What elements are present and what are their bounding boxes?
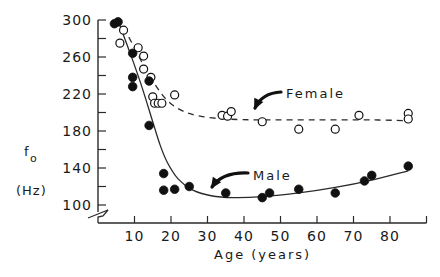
x-tick-label: 40 xyxy=(234,228,254,244)
x-tick-label: 60 xyxy=(307,228,327,244)
x-axis-title: Age (years) xyxy=(214,247,311,262)
female-data-point xyxy=(258,118,266,126)
y-tick-label: 260 xyxy=(62,49,92,65)
female-data-point xyxy=(158,99,166,107)
male-data-point xyxy=(221,189,230,198)
x-tick-label: 30 xyxy=(198,228,218,244)
male-data-point xyxy=(159,169,168,178)
axes: 1020304050607080100140180220260300 xyxy=(62,12,426,244)
x-tick-label: 80 xyxy=(380,228,400,244)
female-data-point xyxy=(227,108,235,116)
y-tick-label: 180 xyxy=(62,123,92,139)
female-data-point xyxy=(171,91,179,99)
fo-by-age-chart: 1020304050607080100140180220260300 Femal… xyxy=(0,0,440,277)
female-data-point xyxy=(140,52,148,60)
x-tick-label: 10 xyxy=(125,228,145,244)
male-data-point xyxy=(360,177,369,186)
male-data-point xyxy=(170,185,179,194)
male-data-point xyxy=(265,189,274,198)
y-axis-title-f: f xyxy=(24,144,30,159)
male-data-point xyxy=(128,82,137,91)
male-data-point xyxy=(294,185,303,194)
male-data-point xyxy=(114,18,123,27)
female-data-point xyxy=(120,26,128,34)
female-data-point xyxy=(116,39,124,47)
male-data-point xyxy=(185,182,194,191)
y-tick-label: 140 xyxy=(62,160,92,176)
y-axis-title: f o (Hz) xyxy=(16,144,47,198)
female-fit-line xyxy=(124,27,412,120)
x-tick-label: 20 xyxy=(161,228,181,244)
male-data-point xyxy=(159,186,168,195)
female-data-point xyxy=(140,65,148,73)
y-axis-title-subscript: o xyxy=(30,152,38,165)
y-tick-label: 220 xyxy=(62,86,92,102)
male-data-point xyxy=(128,73,137,82)
x-tick-label: 70 xyxy=(344,228,364,244)
y-axis-title-units: (Hz) xyxy=(16,183,47,198)
annotations: Female Male xyxy=(211,86,345,189)
y-tick-label: 100 xyxy=(62,197,92,213)
female-label: Female xyxy=(286,86,345,101)
male-data-point xyxy=(367,171,376,180)
male-data-point xyxy=(145,77,154,86)
y-tick-label: 300 xyxy=(62,12,92,28)
male-data-point xyxy=(128,49,137,58)
chart-canvas: 1020304050607080100140180220260300 Femal… xyxy=(0,0,440,277)
female-data-point xyxy=(404,115,412,123)
female-data-point xyxy=(355,111,363,119)
x-tick-label: 50 xyxy=(271,228,291,244)
male-label: Male xyxy=(253,168,292,183)
male-data-point xyxy=(404,162,413,171)
female-data-point xyxy=(331,125,339,133)
male-data-point xyxy=(331,189,340,198)
female-data-point xyxy=(295,125,303,133)
male-data-point xyxy=(145,121,154,130)
